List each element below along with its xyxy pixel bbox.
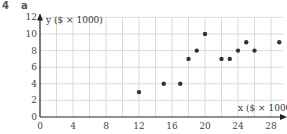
x-tick-label: 16 (166, 121, 178, 131)
data-point (236, 48, 240, 52)
y-axis-arrow-icon (37, 13, 43, 20)
y-tick-label: 8 (31, 46, 37, 56)
x-tick-label: 12 (133, 121, 144, 131)
x-tick-label: 28 (265, 121, 277, 131)
data-point (178, 82, 182, 86)
data-point (137, 90, 141, 94)
x-tick-label: 24 (232, 121, 244, 131)
y-tick-label: 2 (31, 95, 37, 105)
x-axis-label: x ($ × 1000) (238, 103, 287, 113)
data-point (219, 57, 223, 61)
x-tick-label: 0 (37, 121, 43, 131)
x-tick-label: 8 (103, 121, 109, 131)
x-axis-arrow-icon (280, 114, 287, 120)
data-point (244, 40, 248, 44)
x-tick-label: 20 (199, 121, 211, 131)
data-point (277, 40, 281, 44)
x-tick-label: 4 (70, 121, 76, 131)
data-point (228, 57, 232, 61)
y-tick-label: 4 (31, 79, 37, 89)
data-point (252, 48, 256, 52)
data-point (162, 82, 166, 86)
data-point (195, 48, 199, 52)
tick-labels: 0481216202428024681012 (26, 12, 277, 131)
y-tick-label: 6 (31, 62, 37, 72)
y-tick-label: 0 (31, 112, 37, 122)
data-point (203, 32, 207, 36)
y-tick-label: 12 (26, 12, 37, 22)
data-point (186, 57, 190, 61)
y-axis-label: y ($ × 1000) (45, 15, 103, 25)
y-tick-label: 10 (26, 29, 38, 39)
data-points (137, 32, 282, 95)
scatter-chart: 0481216202428024681012 y ($ × 1000) x ($… (0, 0, 287, 134)
